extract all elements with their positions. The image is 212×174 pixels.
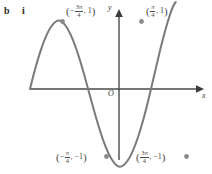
y-value: , 1 [156,6,164,15]
sign: − [70,6,75,15]
paren-close: ) [92,5,96,17]
min-right-marker [184,154,189,159]
paren-close: ) [164,5,168,17]
fraction: π4 [150,4,155,18]
max-right-marker [139,19,144,24]
sine-curve [30,2,176,167]
question-roman-label: i [22,6,25,16]
question-part-label: b [4,6,10,16]
y-value: , −1 [149,152,162,161]
min-left-marker [104,154,109,159]
min-left-point-label: (−π4, −1) [56,150,87,164]
sign: − [60,152,65,161]
fraction: 3π4 [75,4,84,18]
y-axis-arrow-icon [115,9,123,17]
max-right-point-label: (π4, 1) [146,4,168,18]
min-right-point-label: (3π4, −1) [136,150,165,164]
origin-label: O [108,90,114,98]
x-axis-label: x [202,92,206,100]
y-value: , 1 [84,6,92,15]
fraction: 3π4 [140,150,149,164]
y-value: , −1 [70,152,83,161]
y-axis-label: y [108,4,112,12]
paren-open: ( [146,5,150,17]
paren-close: ) [83,151,87,163]
paren-open: ( [136,151,140,163]
max-left-marker [60,19,65,24]
max-left-point-label: (−3π4, 1) [66,4,95,18]
paren-close: ) [162,151,166,163]
trig-graph-figure [0,0,212,174]
